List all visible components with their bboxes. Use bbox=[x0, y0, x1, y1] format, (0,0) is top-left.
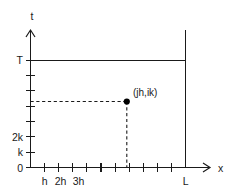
x-tick-label-3h: 3h bbox=[73, 175, 85, 187]
grid-point-label: (jh,ik) bbox=[133, 87, 157, 98]
figure-container: t x T 2k k 0 h 2h 3h L (jh,ik) bbox=[0, 0, 238, 194]
y-tick-label-0: 0 bbox=[17, 162, 23, 174]
y-tick-label-T: T bbox=[17, 54, 24, 66]
x-tick-label-L: L bbox=[183, 175, 189, 187]
y-tick-label-2k: 2k bbox=[12, 131, 24, 143]
space-time-grid-diagram: t x T 2k k 0 h 2h 3h L (jh,ik) bbox=[0, 0, 238, 194]
x-tick-label-2h: 2h bbox=[55, 175, 67, 187]
time-axis-label: t bbox=[31, 10, 34, 22]
x-tick-label-h: h bbox=[42, 175, 48, 187]
space-axis-label: x bbox=[218, 162, 224, 174]
y-tick-label-k: k bbox=[18, 146, 24, 158]
grid-point-marker bbox=[124, 98, 130, 104]
